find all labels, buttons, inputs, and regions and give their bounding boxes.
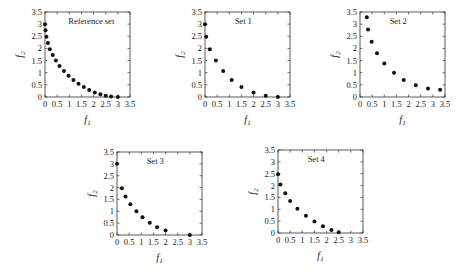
y-tick-label: 2.5 <box>264 169 275 179</box>
x-tick-label: 3.5 <box>358 235 369 245</box>
data-point <box>321 224 325 228</box>
x-tick-label: 0 <box>276 235 280 245</box>
panel-title: Set 4 <box>308 154 326 164</box>
x-axis-title: f1 <box>317 250 323 263</box>
data-point <box>276 172 280 176</box>
x-tick-label: 1.5 <box>309 235 320 245</box>
y-tick-label: 2 <box>271 181 275 191</box>
y-tick-label: 0 <box>271 228 275 238</box>
data-point <box>312 220 316 224</box>
x-tick-label: 0.5 <box>285 235 296 245</box>
x-tick-label: 3 <box>349 235 353 245</box>
data-point <box>278 182 282 186</box>
x-tick-label: 1 <box>300 235 304 245</box>
y-tick-label: 1 <box>271 204 275 214</box>
data-point <box>337 230 341 234</box>
y-axis-title: f2 <box>247 188 260 195</box>
data-point <box>283 191 287 195</box>
x-tick-label: 2.5 <box>333 235 344 245</box>
y-tick-label: 3 <box>271 157 275 167</box>
y-tick-label: 1.5 <box>264 192 275 202</box>
data-point <box>329 228 333 232</box>
data-point <box>288 199 292 203</box>
x-tick-label: 2 <box>324 235 328 245</box>
y-tick-label: 3.5 <box>264 145 275 155</box>
y-tick-label: 0.5 <box>264 216 275 226</box>
data-point <box>304 214 308 218</box>
chart-panel-set-4: 00.511.522.533.500.511.522.533.5f1f2Set … <box>0 0 456 274</box>
data-point <box>295 207 299 211</box>
